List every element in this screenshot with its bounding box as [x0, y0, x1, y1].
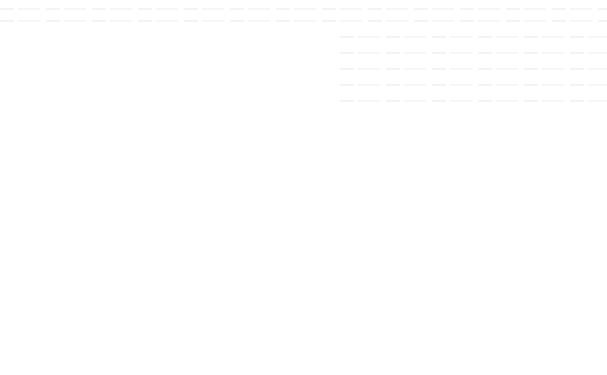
neural-network-diagram — [0, 0, 607, 375]
